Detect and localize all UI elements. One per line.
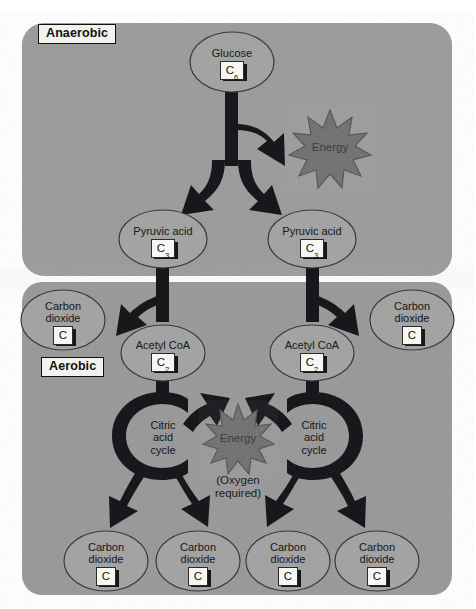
panel-label-anaerobic: Anaerobic [38, 24, 116, 44]
formula-chip: C2 [151, 353, 176, 369]
node-co2-upper-right[interactable]: Carbon dioxide C [374, 296, 450, 348]
formula-symbol: C [59, 329, 67, 341]
node-label: Carbon dioxide [270, 542, 306, 565]
node-co2-bottom-2[interactable]: Carbon dioxide C [160, 537, 236, 589]
formula-symbol: C [194, 570, 202, 582]
node-co2-upper-left[interactable]: Carbon dioxide C [25, 296, 101, 348]
formula-chip: C6 [220, 61, 245, 77]
formula-symbol: C [306, 356, 314, 368]
formula-symbol: C [408, 329, 416, 341]
node-label: Carbon dioxide [180, 542, 216, 565]
cycle-label-citric-right: Citric acid cycle [281, 419, 347, 456]
formula-subscript: 3 [314, 251, 318, 260]
node-glucose[interactable]: Glucose C6 [190, 37, 274, 89]
node-co2-bottom-1[interactable]: Carbon dioxide C [68, 537, 144, 589]
formula-symbol: C [284, 570, 292, 582]
formula-symbol: C [226, 64, 234, 76]
node-label: Acetyl CoA [136, 340, 190, 351]
node-acetylcoa-left[interactable]: Acetyl CoA C2 [121, 331, 205, 379]
formula-chip: C [188, 567, 208, 583]
node-label: Pyruvic acid [282, 226, 341, 237]
cycle-label-citric-left: Citric acid cycle [130, 419, 196, 456]
formula-chip: C3 [300, 239, 325, 255]
node-co2-bottom-4[interactable]: Carbon dioxide C [339, 537, 415, 589]
node-pyruvate-right[interactable]: Pyruvic acid C3 [268, 216, 356, 266]
formula-chip: C [53, 326, 73, 342]
oxygen-required-note: (Oxygen required) [198, 474, 278, 500]
formula-chip: C [402, 326, 422, 342]
node-label: Carbon dioxide [359, 542, 395, 565]
node-label: Pyruvic acid [133, 226, 192, 237]
formula-chip: C [367, 567, 387, 583]
node-label: Glucose [212, 48, 252, 59]
formula-subscript: 2 [314, 365, 318, 374]
formula-chip: C2 [300, 353, 325, 369]
formula-chip: C3 [151, 239, 176, 255]
panel-label-aerobic: Aerobic [41, 357, 104, 377]
node-pyruvate-left[interactable]: Pyruvic acid C3 [119, 216, 207, 266]
node-label: Acetyl CoA [285, 340, 339, 351]
diagram-canvas: Anaerobic Aerobic Glucose C6 Pyruvic aci… [0, 0, 476, 609]
formula-chip: C [278, 567, 298, 583]
formula-symbol: C [157, 356, 165, 368]
node-acetylcoa-right[interactable]: Acetyl CoA C2 [270, 331, 354, 379]
formula-symbol: C [102, 570, 110, 582]
formula-chip: C [96, 567, 116, 583]
node-label: Carbon dioxide [45, 301, 81, 324]
formula-symbol: C [157, 242, 165, 254]
node-label: Carbon dioxide [394, 301, 430, 324]
node-label: Carbon dioxide [88, 542, 124, 565]
formula-symbol: C [373, 570, 381, 582]
formula-symbol: C [306, 242, 314, 254]
formula-subscript: 2 [165, 365, 169, 374]
formula-subscript: 3 [165, 251, 169, 260]
formula-subscript: 6 [234, 73, 238, 82]
node-co2-bottom-3[interactable]: Carbon dioxide C [250, 537, 326, 589]
